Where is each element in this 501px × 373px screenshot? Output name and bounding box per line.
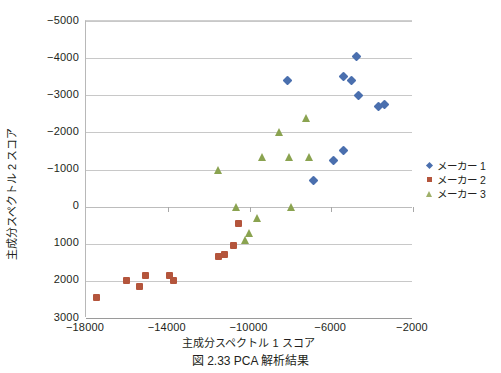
figure-container: −5000−4000−3000−2000−10000100020003000 −… bbox=[0, 0, 501, 373]
x-tick-label--6000: −6000 bbox=[295, 321, 365, 333]
diamond-marker-icon bbox=[282, 75, 292, 85]
square-marker-icon bbox=[235, 220, 242, 227]
chart-legend: メーカー 1メーカー 2メーカー 3 bbox=[424, 159, 498, 201]
triangle-marker-icon bbox=[245, 229, 253, 237]
legend-diamond-icon bbox=[424, 161, 434, 171]
y-tick-label--3000: −3000 bbox=[19, 89, 79, 100]
x-tick-mark--14000 bbox=[168, 207, 169, 212]
y-tick-label--4000: −4000 bbox=[19, 52, 79, 63]
legend-label-1: メーカー 1 bbox=[437, 160, 486, 172]
plot-area bbox=[85, 20, 412, 317]
square-marker-icon bbox=[170, 277, 177, 284]
square-marker-icon bbox=[123, 277, 130, 284]
y-axis-title: 主成分スペクトル 2 スコア bbox=[6, 244, 19, 260]
y-tick-label--1000: −1000 bbox=[19, 163, 79, 174]
triangle-marker-icon bbox=[305, 153, 313, 161]
figure-caption: 図 2.33 PCA 解析結果 bbox=[0, 354, 501, 369]
square-marker-icon bbox=[230, 242, 237, 249]
x-tick-label--10000: −10000 bbox=[214, 321, 284, 333]
gridline-y-2000 bbox=[86, 281, 412, 282]
diamond-marker-icon bbox=[354, 90, 364, 100]
gridline-y--2000 bbox=[86, 132, 412, 133]
triangle-marker-icon bbox=[287, 203, 295, 211]
square-marker-icon bbox=[142, 272, 149, 279]
x-axis-title: 主成分スペクトル 1 スコア bbox=[85, 337, 412, 350]
triangle-marker-icon bbox=[285, 153, 293, 161]
diamond-marker-icon bbox=[309, 176, 319, 186]
triangle-marker-icon bbox=[232, 203, 240, 211]
x-tick-label--18000: −18000 bbox=[50, 321, 120, 333]
square-marker-icon bbox=[93, 294, 100, 301]
x-tick-label--2000: −2000 bbox=[377, 321, 447, 333]
triangle-marker-icon bbox=[253, 214, 261, 222]
gridline-y-3000 bbox=[86, 318, 412, 319]
triangle-marker-icon bbox=[258, 153, 266, 161]
gridline-y--5000 bbox=[86, 21, 412, 22]
x-tick-mark--6000 bbox=[331, 207, 332, 212]
legend-label-3: メーカー 3 bbox=[437, 188, 486, 200]
legend-label-2: メーカー 2 bbox=[437, 174, 486, 186]
legend-triangle-icon bbox=[424, 189, 434, 199]
y-tick-label-0: 0 bbox=[19, 200, 79, 211]
legend-item-2[interactable]: メーカー 2 bbox=[424, 173, 498, 186]
square-marker-icon bbox=[221, 251, 228, 258]
triangle-marker-icon bbox=[214, 166, 222, 174]
triangle-marker-icon bbox=[302, 114, 310, 122]
legend-square-icon bbox=[424, 175, 434, 185]
diamond-marker-icon bbox=[328, 155, 338, 165]
diamond-marker-icon bbox=[347, 75, 357, 85]
y-tick-label-2000: 2000 bbox=[19, 274, 79, 285]
diamond-marker-icon bbox=[339, 146, 349, 156]
legend-item-1[interactable]: メーカー 1 bbox=[424, 159, 498, 172]
gridline-y--4000 bbox=[86, 58, 412, 59]
x-tick-mark--10000 bbox=[250, 207, 251, 212]
triangle-marker-icon bbox=[241, 236, 249, 244]
triangle-marker-icon bbox=[275, 128, 283, 136]
y-tick-label--2000: −2000 bbox=[19, 126, 79, 137]
legend-item-3[interactable]: メーカー 3 bbox=[424, 187, 498, 200]
y-tick-label-1000: 1000 bbox=[19, 237, 79, 248]
diamond-marker-icon bbox=[352, 51, 362, 61]
x-tick-mark--2000 bbox=[413, 207, 414, 212]
x-tick-label--14000: −14000 bbox=[132, 321, 202, 333]
gridline-y--1000 bbox=[86, 170, 412, 171]
gridline-y-1000 bbox=[86, 244, 412, 245]
square-marker-icon bbox=[136, 283, 143, 290]
y-tick-label--5000: −5000 bbox=[19, 15, 79, 26]
